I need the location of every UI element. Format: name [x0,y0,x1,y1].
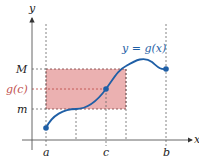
curve-label: y = g(x) [121,42,166,55]
label-b: b [163,146,170,159]
y-axis-label: y [28,2,36,15]
label-M: M [15,63,28,76]
label-a: a [43,146,50,159]
label-m: m [17,103,27,116]
diagram-canvas: y x M g(c) m a c b y = g(x) [0,0,199,161]
point-c [103,86,109,92]
point-b [163,66,169,72]
label-gc: g(c) [6,83,28,96]
point-a [43,125,49,131]
x-axis-label: x [194,133,199,146]
label-c: c [103,146,109,159]
